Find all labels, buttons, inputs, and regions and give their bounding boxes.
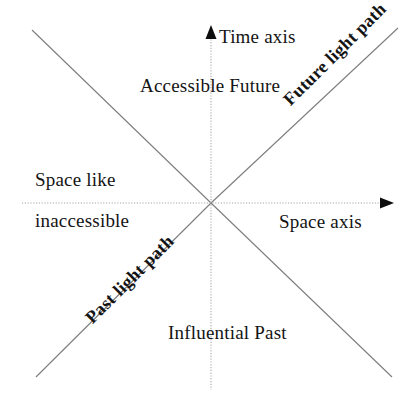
space-axis-arrow-icon <box>380 198 394 209</box>
influential-past-label: Influential Past <box>168 323 287 342</box>
accessible-future-label: Accessible Future <box>140 76 280 95</box>
time-axis-arrow-icon <box>206 25 217 39</box>
future-light-cone-right-line <box>211 28 398 203</box>
space-like-label: Space like <box>35 170 116 189</box>
space-axis-label: Space axis <box>279 212 362 231</box>
inaccessible-label: inaccessible <box>35 211 129 230</box>
time-axis-label: Time axis <box>219 27 296 46</box>
lightcone-diagram: Time axis Space axis Accessible Future I… <box>0 0 415 398</box>
